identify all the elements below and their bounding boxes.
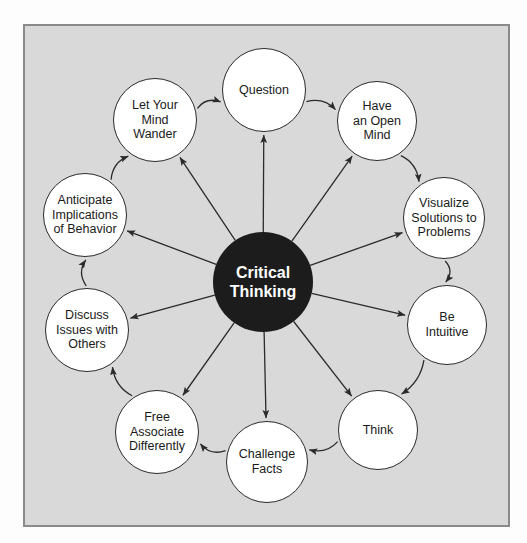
rim-arrow-challenge-to-free-assoc xyxy=(200,444,225,452)
central-hub-critical-thinking[interactable]: Critical Thinking xyxy=(213,232,313,332)
spoke-arrow-challenge xyxy=(264,332,266,418)
concept-node-free-assoc[interactable]: Free Associate Differently xyxy=(115,390,199,474)
spoke-arrow-discuss xyxy=(130,295,214,318)
concept-node-mind-wander[interactable]: Let Your Mind Wander xyxy=(113,78,197,162)
rim-arrow-open-mind-to-visualize xyxy=(401,156,419,182)
concept-node-question[interactable]: Question xyxy=(222,48,306,132)
rim-arrow-intuitive-to-think xyxy=(402,360,424,394)
rim-arrow-mind-wander-to-question xyxy=(197,100,220,108)
spoke-arrow-intuitive xyxy=(312,293,405,315)
rim-arrow-visualize-to-intuitive xyxy=(445,261,450,282)
concept-node-anticipate[interactable]: Anticipate Implications of Behavior xyxy=(43,173,127,257)
concept-node-intuitive[interactable]: Be Intuitive xyxy=(407,285,487,365)
spoke-arrow-question xyxy=(263,135,264,232)
concept-node-open-mind[interactable]: Have an Open Mind xyxy=(337,81,417,161)
spoke-arrow-mind-wander xyxy=(180,157,235,240)
rim-arrow-question-to-open-mind xyxy=(306,100,335,109)
concept-node-visualize[interactable]: Visualize Solutions to Problems xyxy=(403,177,485,259)
spoke-arrow-free-assoc xyxy=(183,323,234,395)
spoke-arrow-anticipate xyxy=(127,231,216,265)
spoke-arrow-visualize xyxy=(310,233,402,266)
spoke-arrow-open-mind xyxy=(292,156,352,241)
rim-arrow-think-to-challenge xyxy=(309,442,337,451)
diagram-page: QuestionHave an Open MindVisualize Solut… xyxy=(0,0,527,543)
concept-node-think[interactable]: Think xyxy=(338,390,418,470)
concept-node-challenge[interactable]: Challenge Facts xyxy=(226,421,308,503)
spoke-arrow-think xyxy=(294,321,352,396)
rim-arrow-anticipate-to-mind-wander xyxy=(111,156,128,179)
concept-node-discuss[interactable]: Discuss Issues with Others xyxy=(45,288,129,372)
rim-arrow-free-assoc-to-discuss xyxy=(112,367,132,396)
rim-arrow-discuss-to-anticipate xyxy=(82,260,87,286)
